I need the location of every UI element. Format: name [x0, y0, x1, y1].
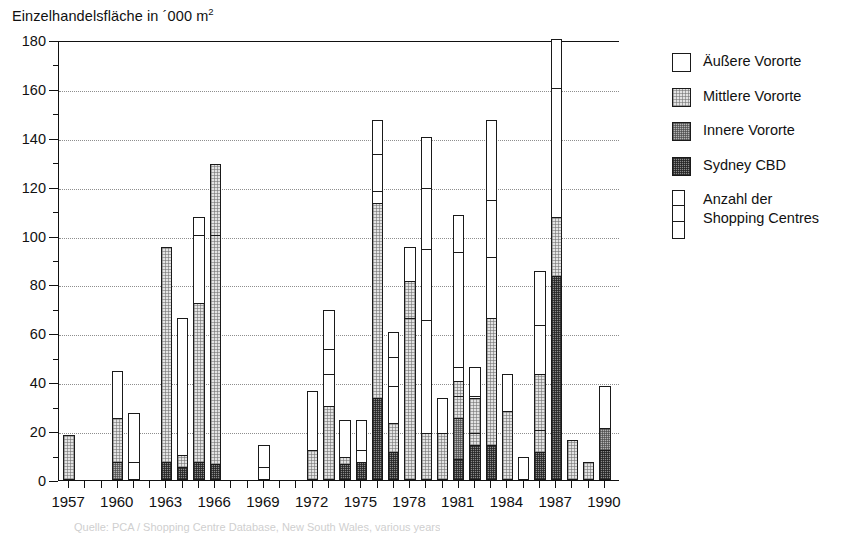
- bar-1990: [599, 387, 610, 480]
- centre-count-divider-1986-2: [534, 325, 545, 326]
- x-tick-1974: [344, 481, 345, 488]
- bar-segment-1982-cbd: [469, 445, 480, 480]
- bar-segment-1974-middle: [339, 457, 350, 465]
- y-tick-label-20: 20: [30, 424, 46, 440]
- bar-segment-1981-cbd: [453, 459, 464, 480]
- centre-count-divider-1977-2: [388, 357, 399, 358]
- count-bar-key-icon: [672, 190, 685, 239]
- chart-legend: Äußere VororteMittlere VororteInnere Vor…: [672, 52, 862, 239]
- bar-segment-1979-outer: [421, 137, 432, 434]
- x-tick-1977: [393, 481, 394, 488]
- bar-segment-1961-outer: [128, 413, 139, 480]
- y-tick-label-100: 100: [22, 229, 46, 245]
- x-tick-label-1969: 1969: [246, 493, 279, 510]
- bar-1979: [421, 138, 432, 480]
- y-tick-label-0: 0: [38, 473, 46, 489]
- centre-count-divider-1974-0: [339, 457, 350, 458]
- bar-segment-1982-outer: [469, 367, 480, 400]
- legend-item-2: Innere Vororte: [672, 121, 862, 141]
- x-tick-1990: [604, 481, 605, 488]
- x-tick-label-1966: 1966: [198, 493, 231, 510]
- source-note: Quelle: PCA / Shopping Centre Database, …: [74, 521, 440, 533]
- bar-segment-1973-outer: [323, 310, 334, 406]
- bar-segment-1963-middle: [161, 247, 172, 463]
- bar-segment-1979-middle: [421, 433, 432, 480]
- bar-segment-1975-outer: [356, 420, 367, 463]
- bar-1988: [567, 441, 578, 480]
- x-tick-label-1963: 1963: [149, 493, 182, 510]
- centre-count-divider-1983-1: [486, 257, 497, 258]
- x-tick-label-1957: 1957: [51, 493, 84, 510]
- y-tick-20: [49, 432, 58, 433]
- y-tick-180: [49, 41, 58, 42]
- centre-count-divider-1976-2: [372, 154, 383, 155]
- x-tick-1957: [68, 481, 69, 488]
- centre-count-divider-1979-0: [421, 433, 432, 434]
- centre-count-divider-1969-0: [258, 467, 269, 468]
- legend-swatch-medium-icon: [672, 122, 691, 141]
- bar-segment-1980-outer: [437, 398, 448, 433]
- x-tick-1968: [247, 481, 248, 488]
- bar-segment-1982-middle: [469, 398, 480, 445]
- x-tick-1972: [312, 481, 313, 488]
- centre-count-divider-1975-0: [356, 450, 367, 451]
- centre-count-divider-1987-1: [551, 88, 562, 89]
- centre-count-divider-1981-2: [453, 367, 464, 368]
- centre-count-divider-1973-1: [323, 349, 334, 350]
- centre-count-divider-1977-1: [388, 386, 399, 387]
- y-tick-label-80: 80: [30, 277, 46, 293]
- bar-1982: [469, 368, 480, 480]
- x-tick-1983: [490, 481, 491, 488]
- bar-segment-1972-outer: [307, 391, 318, 451]
- x-tick-label-1960: 1960: [100, 493, 133, 510]
- y-tick-120: [49, 188, 58, 189]
- bar-segment-1976-cbd: [372, 398, 383, 480]
- x-tick-label-1972: 1972: [295, 493, 328, 510]
- bar-segment-1984-outer: [502, 374, 513, 412]
- centre-count-divider-1978-1: [404, 281, 415, 282]
- centre-count-divider-1982-1: [469, 396, 480, 397]
- x-tick-1963: [165, 481, 166, 488]
- centre-count-divider-1979-1: [421, 320, 432, 321]
- x-tick-1960: [117, 481, 118, 488]
- bar-segment-1978-middle: [404, 281, 415, 480]
- centre-count-divider-1960-0: [112, 418, 123, 419]
- bar-segment-1965-middle: [193, 303, 204, 463]
- legend-item-1: Mittlere Vororte: [672, 87, 862, 107]
- bar-1989: [583, 463, 594, 480]
- centre-count-divider-1983-0: [486, 318, 497, 319]
- centre-count-divider-1979-2: [421, 249, 432, 250]
- centre-count-divider-1976-1: [372, 191, 383, 192]
- bar-1983: [486, 121, 497, 480]
- bar-segment-1988-middle: [567, 440, 578, 480]
- x-tick-label-1981: 1981: [441, 493, 474, 510]
- y-tick-100: [49, 237, 58, 238]
- x-tick-1964: [182, 481, 183, 488]
- bar-1980: [437, 399, 448, 480]
- centre-count-divider-1977-0: [388, 423, 399, 424]
- x-tick-1962: [149, 481, 150, 488]
- x-tick-1965: [198, 481, 199, 488]
- centre-count-divider-1980-0: [437, 433, 448, 434]
- chart-figure: Einzelhandelsfläche in ´000 m2 020406080…: [0, 0, 864, 534]
- y-tick-0: [49, 481, 58, 482]
- centre-count-divider-1978-0: [404, 318, 415, 319]
- bar-1960: [112, 372, 123, 480]
- bars-layer: [59, 42, 619, 480]
- legend-item-0: Äußere Vororte: [672, 52, 862, 72]
- x-tick-label-1984: 1984: [490, 493, 523, 510]
- bar-1961: [128, 414, 139, 480]
- bar-segment-1987-middle: [551, 217, 562, 277]
- bar-1986: [534, 272, 545, 480]
- bar-segment-1975-cbd: [356, 462, 367, 480]
- bar-segment-1990-inner: [599, 428, 610, 451]
- centre-count-divider-1979-3: [421, 188, 432, 189]
- bar-segment-1965-cbd: [193, 462, 204, 480]
- bar-segment-1960-inner: [112, 462, 123, 480]
- plot-area: [58, 41, 619, 481]
- bar-segment-1987-outer: [551, 39, 562, 218]
- chart-title-text: Einzelhandelsfläche in ´000 m: [12, 8, 208, 24]
- bar-segment-1978-outer: [404, 247, 415, 282]
- bar-1969: [258, 446, 269, 480]
- bar-segment-1973-middle: [323, 406, 334, 480]
